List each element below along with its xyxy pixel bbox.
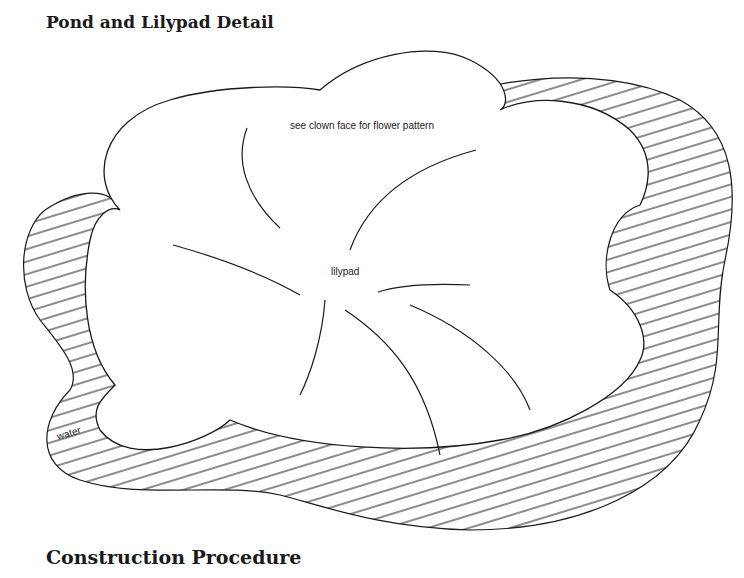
note-label: see clown face for flower pattern (290, 120, 434, 131)
lilypad-shape (85, 51, 648, 450)
pond-lilypad-drawing: see clown face for flower pattern lilypa… (0, 0, 744, 578)
lilypad-label: lilypad (331, 266, 359, 277)
section-heading: Construction Procedure (46, 546, 301, 568)
